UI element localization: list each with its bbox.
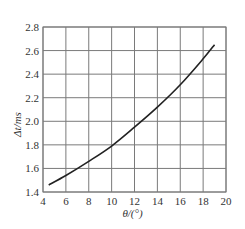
data-curve	[49, 45, 215, 185]
x-tick-label: 6	[63, 195, 69, 207]
x-axis-ticks: 468101214161820	[40, 195, 232, 207]
y-tick-label: 2.8	[25, 21, 39, 33]
x-tick-label: 4	[40, 195, 46, 207]
y-tick-label: 1.4	[25, 186, 39, 198]
x-tick-label: 10	[106, 195, 118, 207]
chart: 468101214161820 1.41.61.82.02.22.42.62.8…	[0, 0, 245, 229]
y-tick-label: 2.4	[25, 68, 39, 80]
x-tick-label: 20	[221, 195, 233, 207]
x-tick-label: 14	[152, 195, 164, 207]
x-tick-label: 8	[86, 195, 92, 207]
y-tick-label: 2.2	[25, 92, 39, 104]
y-axis-ticks: 1.41.61.82.02.22.42.62.8	[25, 21, 39, 198]
x-tick-label: 12	[129, 195, 140, 207]
x-axis-label: θ/(°)	[122, 207, 143, 220]
x-tick-label: 18	[198, 195, 210, 207]
y-tick-label: 2.0	[25, 115, 39, 127]
y-tick-label: 2.6	[25, 45, 39, 57]
x-tick-label: 16	[175, 195, 187, 207]
y-tick-label: 1.8	[25, 139, 39, 151]
y-axis-label: Δt/ms	[11, 112, 23, 138]
grid-lines	[43, 27, 226, 192]
y-tick-label: 1.6	[25, 162, 39, 174]
